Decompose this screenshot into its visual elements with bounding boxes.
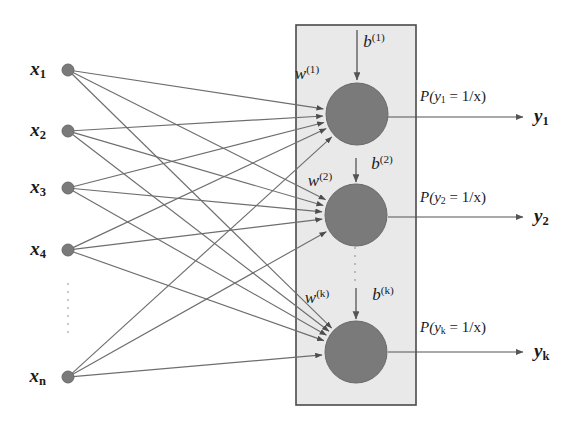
- edge-x2-to-h3: [72, 134, 329, 331]
- edge-x1-to-h1: [73, 71, 323, 109]
- input-node-4: [62, 244, 74, 256]
- input-nodes: [62, 64, 74, 383]
- weight-label-1: w(1): [295, 64, 319, 82]
- input-label-xn: xn: [30, 366, 46, 388]
- neural-network-diagram: x1x2x3x4xnw(1)b(1)w(2)b(2)w(k)b(k)P(y1 =…: [0, 0, 573, 427]
- output-probability-label-3: P(yk = 1/x): [420, 320, 486, 336]
- edge-x5-to-h2: [72, 232, 326, 375]
- input-to-hidden-edges: [72, 71, 332, 377]
- output-label-yk: yk: [534, 341, 549, 363]
- hidden-neuron-3: [325, 321, 387, 383]
- edge-x3-to-h1: [73, 122, 324, 186]
- weight-label-2: w(2): [308, 171, 332, 189]
- edge-x3-to-h2: [73, 188, 322, 211]
- bias-label-2: b(2): [371, 154, 393, 172]
- edge-x2-to-h1: [73, 116, 323, 131]
- edge-x5-to-h1: [72, 137, 332, 374]
- input-node-5: [62, 371, 74, 383]
- edge-x5-to-h3: [73, 355, 322, 377]
- input-node-3: [62, 182, 74, 194]
- output-label-y2: y2: [534, 206, 549, 228]
- input-node-1: [62, 64, 74, 76]
- weight-label-3: w(k): [305, 288, 329, 306]
- bias-label-3: b(k): [372, 285, 394, 303]
- hidden-neuron-2: [325, 184, 387, 246]
- edge-x4-to-h3: [73, 252, 324, 341]
- hidden-neuron-1: [326, 83, 388, 145]
- edge-x2-to-h2: [73, 132, 324, 205]
- input-label-x1: x1: [30, 59, 46, 81]
- output-label-y1: y1: [534, 106, 549, 128]
- bias-label-1: b(1): [363, 32, 385, 50]
- edge-x1-to-h2: [72, 72, 325, 199]
- edge-x4-to-h2: [73, 219, 322, 249]
- input-node-2: [62, 125, 74, 137]
- hidden-neurons: [325, 83, 388, 383]
- diagram-canvas: [0, 0, 573, 427]
- input-label-x4: x4: [30, 239, 46, 261]
- edge-x3-to-h3: [72, 190, 326, 335]
- input-label-x3: x3: [30, 177, 46, 199]
- output-probability-label-2: P(y2 = 1/x): [420, 190, 486, 206]
- output-probability-label-1: P(y1 = 1/x): [420, 89, 486, 105]
- input-label-x2: x2: [30, 120, 46, 142]
- edge-x4-to-h1: [73, 128, 327, 247]
